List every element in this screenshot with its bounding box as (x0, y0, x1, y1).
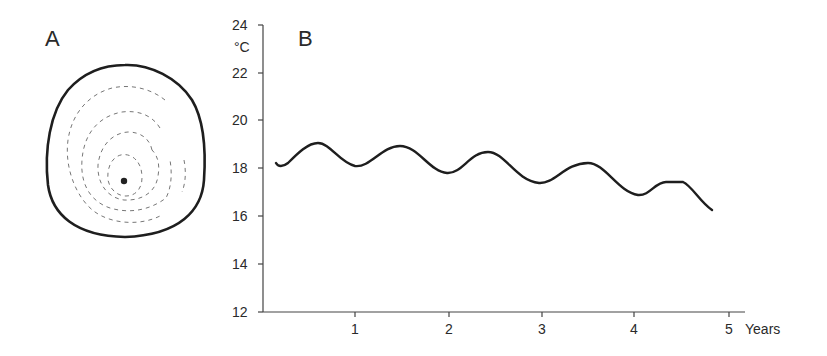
panel-b-chart: 24 22 20 18 16 14 12 °C 1 2 3 4 5 Years (0, 0, 827, 356)
y-tick-18: 18 (232, 160, 248, 176)
x-tick-5: 5 (725, 321, 733, 337)
x-tick-4: 4 (630, 321, 638, 337)
x-axis-label: Years (745, 321, 780, 337)
temperature-line (276, 143, 712, 210)
y-tick-24: 24 (232, 17, 248, 33)
x-tick-3: 3 (538, 321, 546, 337)
x-tick-1: 1 (351, 321, 359, 337)
y-tick-12: 12 (232, 304, 248, 320)
y-axis-unit: °C (234, 39, 250, 55)
x-tick-labels: 1 2 3 4 5 Years (351, 321, 780, 337)
y-tick-22: 22 (232, 65, 248, 81)
axes (258, 25, 745, 317)
x-tick-2: 2 (445, 321, 453, 337)
y-tick-20: 20 (232, 112, 248, 128)
y-tick-16: 16 (232, 208, 248, 224)
y-tick-14: 14 (232, 256, 248, 272)
y-tick-labels: 24 22 20 18 16 14 12 °C (232, 17, 250, 320)
